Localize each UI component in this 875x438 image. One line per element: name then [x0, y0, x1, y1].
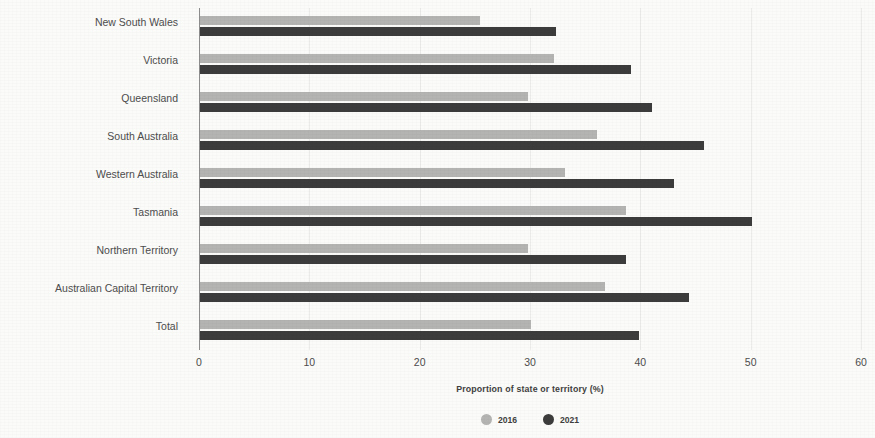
bar-2016 — [200, 168, 565, 177]
x-axis-title: Proportion of state or territory (%) — [199, 384, 861, 394]
bar-2016 — [200, 320, 531, 329]
legend-item[interactable]: 2016 — [481, 414, 517, 425]
category-group: South Australia — [199, 122, 861, 160]
x-axis-tick-label: 20 — [414, 356, 426, 368]
x-axis-ticks: 0102030405060 — [199, 356, 861, 372]
legend-label: 2016 — [498, 415, 517, 425]
bar-2021 — [200, 141, 704, 150]
plot-area: New South WalesVictoriaQueenslandSouth A… — [199, 8, 861, 350]
y-axis-tick-label: Tasmania — [0, 206, 178, 218]
legend-item[interactable]: 2021 — [543, 414, 579, 425]
bar-2016 — [200, 206, 626, 215]
category-group: Western Australia — [199, 160, 861, 198]
y-axis-tick-label: Victoria — [0, 54, 178, 66]
category-group: Australian Capital Territory — [199, 274, 861, 312]
bar-2016 — [200, 92, 528, 101]
x-axis-tick-label: 0 — [196, 356, 202, 368]
x-axis-tick-label: 40 — [634, 356, 646, 368]
y-axis-tick-label: Australian Capital Territory — [0, 282, 178, 294]
category-group: Victoria — [199, 46, 861, 84]
bar-2016 — [200, 130, 597, 139]
circle-swatch-2021 — [543, 414, 554, 425]
x-axis-tick-label: 10 — [303, 356, 315, 368]
circle-swatch-2016 — [481, 414, 492, 425]
bar-2021 — [200, 293, 689, 302]
bar-2021 — [200, 255, 626, 264]
gridline-60 — [861, 8, 862, 350]
y-axis-tick-label: New South Wales — [0, 16, 178, 28]
bar-2016 — [200, 16, 480, 25]
y-axis-tick-label: Total — [0, 320, 178, 332]
bar-2021 — [200, 27, 556, 36]
legend-label: 2021 — [560, 415, 579, 425]
category-group: Total — [199, 312, 861, 350]
x-axis-tick-label: 30 — [524, 356, 536, 368]
x-axis-tick-label: 50 — [745, 356, 757, 368]
x-axis-tick-label: 60 — [855, 356, 867, 368]
chart-legend: 20162021 — [199, 414, 861, 425]
y-axis-tick-label: Northern Territory — [0, 244, 178, 256]
y-axis-tick-label: Queensland — [0, 92, 178, 104]
category-group: Tasmania — [199, 198, 861, 236]
bar-2016 — [200, 244, 528, 253]
bar-2021 — [200, 103, 652, 112]
bar-2016 — [200, 54, 554, 63]
category-group: New South Wales — [199, 8, 861, 46]
category-group: Northern Territory — [199, 236, 861, 274]
bar-2016 — [200, 282, 605, 291]
y-axis-tick-label: South Australia — [0, 130, 178, 142]
bar-2021 — [200, 217, 752, 226]
bar-chart: State/territory New South WalesVictoriaQ… — [0, 0, 875, 438]
bar-2021 — [200, 331, 639, 340]
y-axis-tick-label: Western Australia — [0, 168, 178, 180]
bar-2021 — [200, 179, 674, 188]
category-group: Queensland — [199, 84, 861, 122]
bar-2021 — [200, 65, 631, 74]
